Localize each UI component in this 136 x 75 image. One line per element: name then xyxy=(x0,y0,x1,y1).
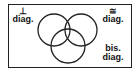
label-congruent-diagonals: ≅ diag. xyxy=(101,7,125,24)
label-perpendicular-diagonals: ⊥ diag. xyxy=(12,7,34,24)
label-bisecting-diagonals: bis. diag. xyxy=(101,44,125,62)
